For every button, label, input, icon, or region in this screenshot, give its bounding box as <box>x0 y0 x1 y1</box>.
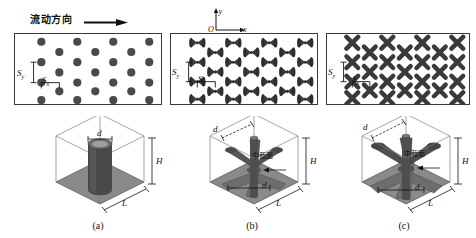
midsection-label-b: 中截面 <box>252 150 273 160</box>
dimension-label-H-a: H <box>156 156 163 166</box>
dimension-label-d-bottom-b: d <box>262 180 267 190</box>
pin-array-crosses <box>327 34 469 104</box>
spacing-label-sx-a: Sx <box>42 75 49 87</box>
cross-unit-cell <box>340 116 472 220</box>
right-arrow-icon <box>84 19 128 26</box>
dimension-label-L-a: L <box>122 198 127 208</box>
flow-direction-label: 流动方向 <box>30 11 72 26</box>
spacing-label-sx-c: Sx <box>352 74 359 86</box>
dimension-label-d-top-b: d <box>213 124 218 134</box>
unit-cell-b <box>188 116 320 220</box>
pin-array-circles <box>15 34 161 104</box>
top-view-panel-b <box>170 33 318 105</box>
dimension-label-H-b: H <box>310 156 317 166</box>
pin-array-bowties <box>171 34 317 104</box>
caption-a: (a) <box>68 220 128 231</box>
dimension-label-L-b: L <box>276 198 281 208</box>
caption-c: (c) <box>374 220 434 231</box>
dimension-label-H-c: H <box>462 156 469 166</box>
spacing-label-sy-a: Sy <box>17 68 24 80</box>
svg-text:x: x <box>242 25 247 32</box>
spacing-label-sx-b: Sx <box>198 74 205 86</box>
bowtie-unit-cell <box>188 116 320 220</box>
spacing-label-sy-c: Sy <box>328 67 335 79</box>
coordinate-axes: y x O <box>206 6 252 32</box>
midsection-label-c: 中截面 <box>404 148 425 158</box>
dimension-label-d-top-c: d <box>363 122 368 132</box>
dimension-label-d-a: d <box>97 128 102 138</box>
top-view-panel-a <box>14 33 162 105</box>
svg-text:O: O <box>208 25 214 32</box>
dimension-label-d-bottom-c: d <box>415 182 420 192</box>
caption-b: (b) <box>222 220 282 231</box>
unit-cell-c <box>340 116 472 220</box>
svg-text:y: y <box>218 7 223 16</box>
top-view-panel-c <box>326 33 470 105</box>
dimension-label-L-c: L <box>428 198 433 208</box>
figure-root: 流动方向 y x O <box>0 0 476 238</box>
spacing-label-sy-b: Sy <box>172 67 179 79</box>
